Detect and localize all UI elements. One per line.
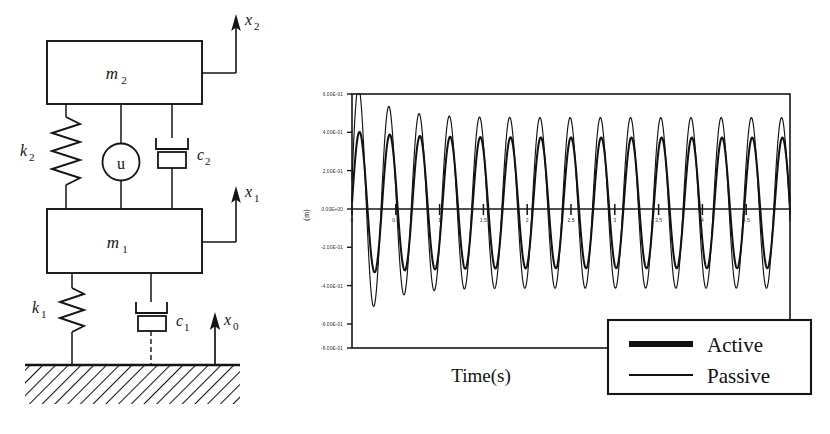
spring-k2-label-sub: 2 bbox=[29, 151, 35, 163]
damper-c2-label-sub: 2 bbox=[205, 155, 211, 167]
spring-k2 bbox=[52, 117, 80, 185]
legend-box: Active Passive bbox=[608, 320, 811, 394]
mass-m1-block bbox=[47, 209, 202, 273]
mass-m2-label-sub: 2 bbox=[121, 74, 127, 86]
mass-m2-label: m bbox=[106, 64, 118, 83]
y-tick-label: 6.00E-01 bbox=[323, 91, 344, 97]
figure-root: m 2 x 2 k 2 u c 2 bbox=[0, 0, 830, 434]
schematic-svg: m 2 x 2 k 2 u c 2 bbox=[0, 0, 300, 434]
y-axis-title: (m) bbox=[302, 209, 311, 221]
x0-label: x bbox=[223, 311, 231, 328]
actuator-u-label: u bbox=[117, 155, 125, 172]
mass-m2-block bbox=[47, 41, 202, 104]
y-tick-labels: 6.00E-01 4.00E-01 2.00E-01 0.00E+00 -2.0… bbox=[321, 91, 343, 351]
schematic-panel: m 2 x 2 k 2 u c 2 bbox=[0, 0, 300, 434]
x-tick-label: 2 bbox=[526, 217, 529, 223]
x-tick-label: 2.5 bbox=[567, 217, 574, 223]
damper-c1-label-sub: 1 bbox=[184, 321, 190, 333]
x1-label: x bbox=[244, 183, 252, 200]
x1-label-sub: 1 bbox=[254, 192, 260, 204]
spring-k2-label: k bbox=[20, 142, 28, 159]
damper-c2-piston bbox=[158, 152, 186, 168]
x-tick-label: 3 bbox=[613, 217, 616, 223]
x0-label-sub: 0 bbox=[233, 320, 239, 332]
x2-label: x bbox=[244, 11, 252, 28]
damper-c1-label: c bbox=[176, 312, 183, 329]
y-tick-label: 4.00E-01 bbox=[323, 129, 344, 135]
spring-k1 bbox=[60, 288, 84, 332]
damper-c1-piston bbox=[138, 316, 166, 331]
y-tick-label: 2.00E-01 bbox=[323, 168, 344, 174]
legend-label-active: Active bbox=[707, 333, 763, 357]
x-axis-title: Time(s) bbox=[451, 365, 510, 387]
x-tick-label: 3.5 bbox=[655, 217, 662, 223]
spring-k1-label-sub: 1 bbox=[41, 308, 47, 320]
y-tick-label: -4.00E-01 bbox=[321, 283, 343, 289]
x-tick-label: 1.5 bbox=[480, 217, 487, 223]
y-tick-label: 0.00E+00 bbox=[321, 206, 343, 212]
mass-m1-label: m bbox=[107, 233, 119, 252]
x2-label-sub: 2 bbox=[254, 20, 260, 32]
damper-c2-cylinder bbox=[156, 138, 188, 149]
legend-label-passive: Passive bbox=[707, 364, 770, 388]
response-plot-svg: 0 0.5 1 1.5 2 2.5 3 3.5 4 4.5 5 bbox=[295, 0, 830, 434]
damper-c1-cylinder bbox=[136, 302, 167, 313]
damper-c2-label: c bbox=[197, 146, 204, 163]
x-tick-label: 0 bbox=[351, 217, 354, 223]
response-plot-panel: 0 0.5 1 1.5 2 2.5 3 3.5 4 4.5 5 bbox=[295, 0, 830, 434]
y-tick-label: -2.00E-01 bbox=[321, 244, 343, 250]
y-tick-label: -6.00E-01 bbox=[321, 321, 343, 327]
spring-k1-label: k bbox=[32, 299, 40, 316]
mass-m1-label-sub: 1 bbox=[122, 243, 128, 255]
ground-hatching bbox=[25, 366, 240, 404]
y-tick-label: -8.00E-01 bbox=[321, 345, 343, 351]
